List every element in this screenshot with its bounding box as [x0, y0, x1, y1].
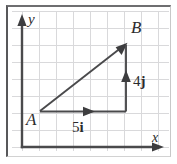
vertical-component-vector	[121, 45, 131, 112]
horizontal-component-label: 5i	[72, 119, 84, 135]
vertical-component-arrowhead	[121, 70, 131, 82]
horizontal-component-number: 5	[72, 119, 80, 135]
x-axis-label: x	[151, 130, 159, 145]
point-label-b: B	[131, 18, 142, 37]
vector-diagram-svg: A B y x 5i 4j	[6, 5, 171, 157]
x-axis	[22, 142, 164, 151]
y-axis-label: y	[26, 11, 35, 27]
vertical-component-label: 4j	[133, 73, 146, 89]
horizontal-component-unit: i	[80, 119, 84, 135]
point-label-a: A	[25, 110, 37, 129]
plot-area: A B y x 5i 4j	[6, 5, 171, 157]
resultant-vector-AB	[40, 43, 128, 111]
figure-frame: A B y x 5i 4j	[0, 0, 177, 164]
vertical-component-unit: j	[140, 73, 146, 89]
horizontal-component-vector	[40, 107, 126, 117]
y-axis-arrowhead	[17, 14, 26, 26]
horizontal-component-arrowhead	[83, 107, 95, 117]
